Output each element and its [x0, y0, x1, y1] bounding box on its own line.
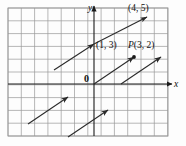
origin-label: 0 [84, 74, 89, 84]
label-point-p-3-2: P(3, 2) [128, 41, 154, 51]
vector-diagram-canvas [0, 0, 186, 146]
figure-container: y x 0 (4, 5) (1, 3) P(3, 2) [0, 0, 186, 146]
label-point-1-3: (1, 3) [96, 41, 117, 51]
y-axis-label: y [88, 4, 92, 14]
label-point-4-5: (4, 5) [128, 4, 149, 14]
x-axis-label: x [174, 80, 178, 90]
point-markers [132, 55, 136, 59]
label-point-p-coords: (3, 2) [134, 40, 155, 50]
dot-point-p-3-2 [132, 55, 136, 59]
grid-lines [8, 8, 168, 136]
axes [8, 6, 172, 136]
